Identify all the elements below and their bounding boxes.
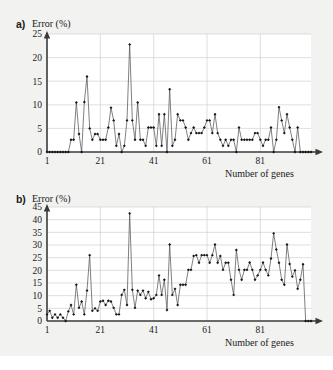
x-tick-label: 61 (202, 325, 212, 335)
panel-a: a) Error (%) Number of genes 05101520251… (0, 0, 333, 185)
y-tick-label: 20 (33, 266, 43, 276)
panel-a-label: a) (16, 18, 25, 30)
x-tick-label: 1 (45, 156, 50, 166)
y-tick-label: 25 (33, 253, 43, 263)
x-tick-label: 21 (96, 325, 106, 335)
x-tick-label: 61 (202, 156, 212, 166)
y-tick-label: 20 (33, 53, 43, 63)
panel-a-y-axis-title: Error (%) (32, 18, 71, 29)
x-tick-label: 81 (256, 156, 266, 166)
y-tick-label: 15 (33, 77, 43, 87)
x-tick-label: 1 (45, 325, 50, 335)
y-tick-label: 15 (33, 278, 43, 288)
x-tick-label: 81 (256, 325, 266, 335)
y-tick-label: 25 (33, 29, 43, 39)
x-tick-label: 21 (96, 156, 106, 166)
panel-a-x-axis-title: Number of genes (225, 168, 294, 179)
y-tick-label: 10 (33, 291, 43, 301)
panel-b-chart-svg: 051015202530354045121416181 (0, 180, 333, 356)
panel-b: b) Error (%) Number of genes 05101520253… (0, 180, 333, 356)
plot-area-background (47, 207, 311, 321)
y-tick-label: 0 (37, 316, 42, 326)
x-tick-label: 41 (149, 325, 159, 335)
y-tick-label: 5 (37, 124, 42, 134)
panel-b-x-axis-title: Number of genes (225, 337, 294, 348)
y-tick-label: 10 (33, 100, 43, 110)
y-tick-label: 40 (33, 215, 43, 225)
panel-b-y-axis-title: Error (%) (32, 193, 71, 204)
figure-page: a) Error (%) Number of genes 05101520251… (0, 0, 333, 370)
y-tick-label: 35 (33, 228, 43, 238)
x-tick-label: 41 (149, 156, 159, 166)
x-axis-arrowhead (316, 318, 324, 324)
y-tick-label: 0 (37, 147, 42, 157)
y-tick-label: 5 (37, 304, 42, 314)
y-tick-label: 30 (33, 240, 43, 250)
x-axis-arrowhead (316, 149, 324, 155)
panel-b-label: b) (16, 193, 26, 205)
